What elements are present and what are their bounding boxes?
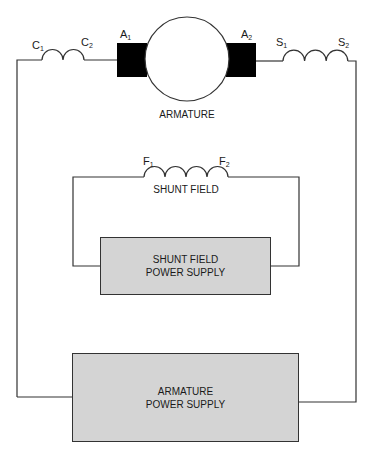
shunt-field-power-supply: SHUNT FIELD POWER SUPPLY xyxy=(100,237,271,295)
armature-circle xyxy=(145,17,229,101)
armature-supply-line1: ARMATURE xyxy=(158,385,213,398)
label-f1-sub: 1 xyxy=(150,161,154,168)
interpole-coil xyxy=(283,50,348,61)
label-a2: A2 xyxy=(241,29,252,41)
label-s2: S2 xyxy=(338,37,349,49)
series-field-coil xyxy=(42,50,84,61)
label-f2-letter: F xyxy=(219,155,226,167)
label-c2-sub: 2 xyxy=(89,42,93,49)
label-a1: A1 xyxy=(120,29,131,41)
label-c1-sub: 1 xyxy=(40,45,44,52)
wire-right-outer xyxy=(298,61,356,402)
label-a2-sub: 2 xyxy=(248,34,252,41)
brush-a1 xyxy=(117,43,147,77)
label-f2-sub: 2 xyxy=(226,161,230,168)
label-s2-sub: 2 xyxy=(345,42,349,49)
label-a1-sub: 1 xyxy=(127,34,131,41)
label-f1-letter: F xyxy=(143,155,150,167)
wire-left-outer xyxy=(17,60,42,397)
label-c2-letter: C xyxy=(81,36,89,48)
shunt-field-coil xyxy=(144,167,228,178)
shunt-field-label: SHUNT FIELD xyxy=(146,183,226,196)
label-c1-letter: C xyxy=(32,39,40,51)
label-c1: C1 xyxy=(32,40,44,52)
armature-label: ARMATURE xyxy=(157,108,217,121)
shunt-supply-line1: SHUNT FIELD xyxy=(153,253,218,266)
label-f1: F1 xyxy=(143,156,154,168)
label-s1: S1 xyxy=(276,37,287,49)
brush-a2 xyxy=(226,43,256,77)
label-s1-sub: 1 xyxy=(283,42,287,49)
shunt-supply-line2: POWER SUPPLY xyxy=(146,266,225,279)
armature-supply-line2: POWER SUPPLY xyxy=(146,398,225,411)
label-c2: C2 xyxy=(81,37,93,49)
armature-power-supply: ARMATURE POWER SUPPLY xyxy=(72,353,299,442)
label-f2: F2 xyxy=(219,156,230,168)
